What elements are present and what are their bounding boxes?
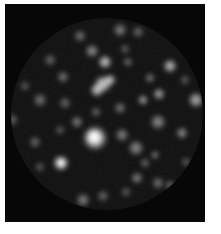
speckle-image	[5, 4, 205, 222]
image-frame	[5, 4, 205, 222]
speckle-image-page	[0, 0, 221, 234]
